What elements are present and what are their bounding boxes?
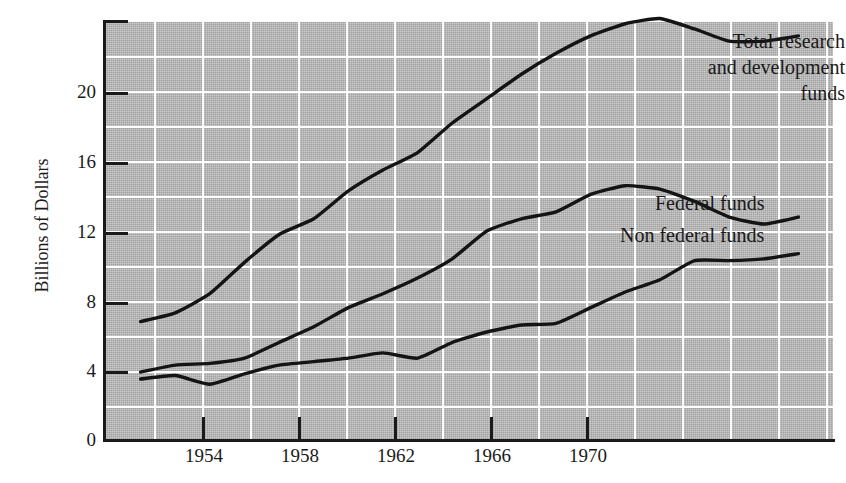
y-tick-mark: [106, 92, 128, 95]
y-tick-mark: [106, 20, 128, 23]
y-tick-labels: 20 16 12 8 4 0: [48, 0, 96, 483]
y-tick-label: 12: [56, 222, 96, 241]
gridline-horizontal: [106, 266, 833, 268]
y-tick-label: 4: [56, 361, 96, 380]
y-tick-mark: [106, 232, 128, 235]
x-tick-mark: [298, 417, 301, 439]
gridline-horizontal: [106, 301, 833, 303]
x-tick-label: 1958: [260, 446, 340, 465]
series-label-nonfederal: Non federal funds: [620, 222, 845, 248]
x-tick-mark: [490, 417, 493, 439]
y-tick-label: 8: [56, 292, 96, 311]
y-tick-label: 0: [56, 430, 96, 449]
y-tick-mark: [106, 371, 128, 374]
x-tick-mark: [394, 417, 397, 439]
x-axis-line: [103, 439, 835, 442]
x-tick-label: 1954: [164, 446, 244, 465]
chart-figure: 20 16 12 8 4 0 Billions of Dollars 1954 …: [0, 0, 846, 483]
x-tick-label: 1966: [452, 446, 532, 465]
gridline-horizontal: [106, 371, 833, 373]
x-tick-label: 1970: [548, 446, 628, 465]
gridline-horizontal: [106, 161, 833, 163]
x-tick-mark: [586, 417, 589, 439]
x-tick-mark: [202, 417, 205, 439]
gridline-horizontal: [106, 336, 833, 338]
y-tick-mark: [106, 162, 128, 165]
gridline-horizontal: [106, 406, 833, 408]
y-axis-title: Billions of Dollars: [32, 106, 53, 346]
y-tick-label: 20: [56, 82, 96, 101]
gridline-horizontal: [106, 126, 833, 128]
y-tick-mark: [106, 302, 128, 305]
x-tick-label: 1962: [356, 446, 436, 465]
y-axis-line: [103, 20, 106, 442]
y-tick-label: 16: [56, 152, 96, 171]
series-label-federal: Federal funds: [655, 190, 845, 216]
series-label-total: Total research and development funds: [655, 28, 845, 106]
